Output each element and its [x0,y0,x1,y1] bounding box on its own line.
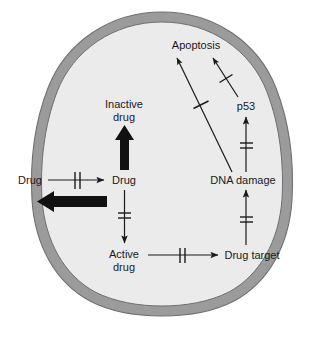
label-active-drug-line1: Active [109,248,139,260]
label-p53: p53 [237,100,255,112]
label-drug-target: Drug target [224,249,279,261]
label-intracellular-drug: Drug [112,174,136,186]
label-extracellular-drug: Drug [18,174,42,186]
label-inactive-drug-line1: Inactive [105,98,143,110]
pathway-diagram: Drug Drug Inactive drug Active drug Drug… [0,0,325,339]
label-active-drug-line2: drug [113,261,135,273]
label-inactive-drug-line2: drug [113,111,135,123]
diagram-canvas: Drug Drug Inactive drug Active drug Drug… [0,0,325,339]
label-apoptosis: Apoptosis [172,39,221,51]
label-dna-damage: DNA damage [210,174,275,186]
